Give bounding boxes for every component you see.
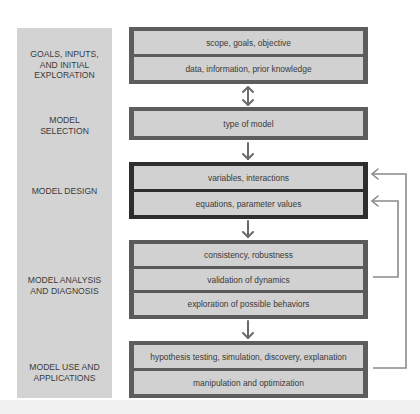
connectors-layer <box>0 0 420 414</box>
feedback-arrow-icon <box>372 169 406 368</box>
feedback-arrow-icon <box>372 196 398 277</box>
down-arrow-icon <box>243 221 253 237</box>
down-arrow-icon <box>243 143 253 159</box>
bidirectional-arrow-icon <box>243 87 253 105</box>
down-arrow-icon <box>243 321 253 338</box>
